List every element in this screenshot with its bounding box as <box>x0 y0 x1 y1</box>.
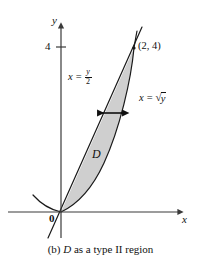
y-tick-label-4: 4 <box>45 41 51 52</box>
figure-container: y x 4 0 D (2, 4) x = y 2 x = √ y (b) D a… <box>0 0 201 266</box>
caption-rest: as a type II region <box>74 243 153 255</box>
equation-right-variable: x <box>139 93 144 104</box>
line-x-equals-y-over-2 <box>48 27 142 238</box>
equation-right-equals: = <box>147 93 153 104</box>
equation-left-equals: = <box>76 72 82 83</box>
equation-left-variable: x <box>68 72 73 83</box>
figure-caption: (b) D as a type II region <box>0 243 201 255</box>
origin-label: 0 <box>49 213 55 224</box>
caption-prefix: (b) <box>48 243 61 255</box>
region-label-d: D <box>92 148 101 160</box>
plot-canvas <box>0 0 201 266</box>
equation-right-boundary: x = √ y <box>139 92 166 104</box>
y-axis-label: y <box>52 15 57 26</box>
caption-region-symbol: D <box>63 243 71 255</box>
fraction-numerator: y <box>85 68 91 76</box>
radical-sqrt-y: √ y <box>156 92 167 104</box>
fraction-denominator: 2 <box>85 78 91 86</box>
x-axis-label: x <box>182 214 187 225</box>
fraction-y-over-2: y 2 <box>85 68 92 87</box>
radicand: y <box>161 92 167 104</box>
point-label-2-4: (2, 4) <box>138 41 161 52</box>
equation-left-boundary: x = y 2 <box>68 68 92 87</box>
point-2-4-dot <box>132 46 135 49</box>
